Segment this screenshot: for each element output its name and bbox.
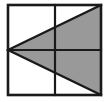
figure-root: Square divided into quadrants with two s… [0, 0, 108, 102]
geometric-diagram-svg [0, 0, 108, 102]
